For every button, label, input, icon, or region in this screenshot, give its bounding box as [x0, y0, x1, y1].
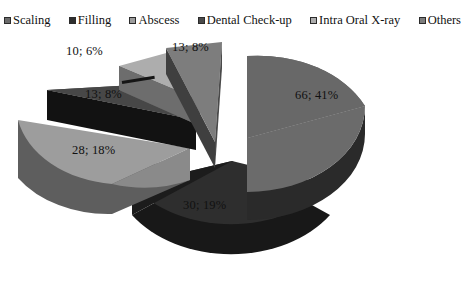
- data-label-abscess: 28; 18%: [72, 143, 115, 158]
- pie-slice-scaling[interactable]: [247, 56, 365, 220]
- legend-label-abscess: Abscess: [138, 14, 179, 27]
- legend-label-others: Others: [428, 14, 461, 27]
- pie-plot-area: [0, 28, 465, 291]
- legend-swatch-icon: [198, 17, 205, 24]
- data-label-scaling: 66; 41%: [295, 88, 338, 103]
- legend-item-filling[interactable]: Filling: [69, 14, 111, 27]
- data-label-filling: 30; 19%: [183, 198, 226, 213]
- legend-item-intra-oral-x-ray[interactable]: Intra Oral X-ray: [310, 14, 400, 27]
- pie-svg: [0, 28, 465, 291]
- legend-item-others[interactable]: Others: [419, 14, 461, 27]
- data-label-dental-check-up: 13; 8%: [85, 87, 122, 102]
- legend-swatch-icon: [129, 17, 136, 24]
- legend-swatch-icon: [310, 17, 317, 24]
- legend-swatch-icon: [419, 17, 426, 24]
- legend-label-dental-check-up: Dental Check-up: [207, 14, 292, 27]
- legend-item-dental-check-up[interactable]: Dental Check-up: [198, 14, 292, 27]
- legend-label-scaling: Scaling: [13, 14, 51, 27]
- legend-label-filling: Filling: [78, 14, 111, 27]
- pie-chart-figure: Scaling Filling Abscess Dental Check-up …: [0, 0, 465, 291]
- data-label-others: 13; 8%: [172, 40, 209, 55]
- chart-legend: Scaling Filling Abscess Dental Check-up …: [0, 10, 465, 30]
- data-label-intra-oral-x-ray: 10; 6%: [66, 44, 103, 59]
- legend-item-scaling[interactable]: Scaling: [4, 14, 51, 27]
- legend-label-intra-oral-x-ray: Intra Oral X-ray: [319, 14, 400, 27]
- legend-item-abscess[interactable]: Abscess: [129, 14, 179, 27]
- legend-swatch-icon: [69, 17, 76, 24]
- legend-swatch-icon: [4, 17, 11, 24]
